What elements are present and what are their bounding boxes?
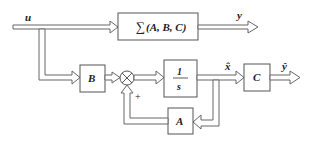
C-label: C (253, 71, 261, 83)
plant-sigma: ∑ (136, 19, 145, 34)
sum-plus-sign: + (135, 91, 141, 102)
input-label-u: u (25, 11, 31, 23)
A-block: A (168, 108, 193, 134)
plant-args: (A, B, C) (146, 21, 186, 34)
A-label: A (175, 115, 183, 127)
estimated-output-label: ŷ (280, 60, 287, 72)
B-label: B (87, 72, 95, 84)
yhat-output-arrow (270, 71, 300, 84)
B-block: B (80, 65, 105, 92)
integrator-block: 1 s (164, 60, 197, 97)
observer-block-diagram: u ∑ (A, B, C) y B + 1 s x̂ (0, 0, 315, 146)
y-output-arrow (198, 21, 258, 33)
output-label-y: y (235, 9, 242, 21)
summing-junction (120, 71, 134, 85)
B-to-sum-arrow (105, 72, 120, 83)
sum-to-integrator-arrow (134, 71, 164, 84)
integrator-denominator: s (176, 81, 181, 92)
estimated-state-label: x̂ (224, 60, 231, 72)
integrator-numerator: 1 (177, 66, 182, 77)
C-block: C (244, 64, 270, 91)
A-to-sum-feedback-arrow (121, 85, 168, 124)
plant-block: ∑ (A, B, C) (118, 13, 198, 40)
xhat-to-C-arrow (197, 71, 244, 84)
u-to-B-arrow (39, 29, 80, 84)
